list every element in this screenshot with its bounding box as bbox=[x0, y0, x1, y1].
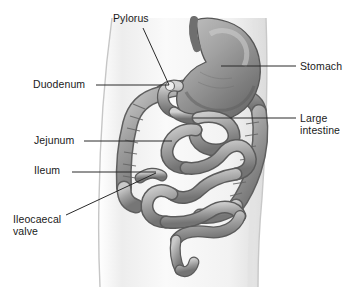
label-ileocaecal-valve: Ileocaecal valve bbox=[13, 214, 61, 237]
digestive-system-figure: Pylorus Duodenum Stomach Large intestine… bbox=[0, 0, 355, 287]
label-duodenum: Duodenum bbox=[33, 79, 85, 91]
label-ileum: Ileum bbox=[34, 165, 60, 177]
label-pylorus: Pylorus bbox=[113, 13, 149, 25]
label-jejunum: Jejunum bbox=[34, 135, 74, 147]
label-large-intestine: Large intestine bbox=[300, 113, 340, 136]
pylorus bbox=[166, 82, 175, 91]
label-stomach: Stomach bbox=[300, 61, 342, 73]
